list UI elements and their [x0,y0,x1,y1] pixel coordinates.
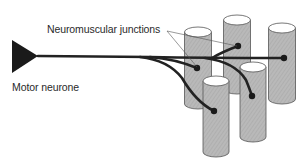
motor-neurone-label: Motor neurone [12,81,79,93]
muscle-fibre-5 [203,76,229,157]
junction-4 [249,93,255,99]
junction-5 [211,108,217,114]
junction-1 [194,65,200,71]
muscle-fibre-3 [269,23,296,104]
neuromuscular-junctions-label: Neuromuscular junctions [47,23,160,35]
muscle-fibre-4 [240,62,266,142]
junction-3 [281,55,287,61]
motor-neurone-cell-body [12,40,38,73]
